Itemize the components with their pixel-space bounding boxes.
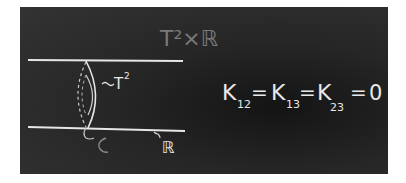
k13-letter: K [271,80,286,105]
torus-front-arc [86,61,96,128]
line-pointer [154,132,160,138]
equals-3: = [350,80,367,104]
circle-c-curve [99,138,108,152]
zero: 0 [369,81,382,105]
cylinder-top-line [28,60,183,61]
chalk-drawing: T²×ℝ T 2 ℝ K 12 = K 13 = K 23 = 0 [0,0,406,183]
k23-subscript: 23 [330,101,344,114]
equation: K 12 = K 13 = K 23 = 0 [222,80,382,114]
k12-letter: K [222,80,237,105]
equals-1: = [251,80,268,104]
torus-inner-arc [86,75,93,115]
torus-pointer [102,83,114,86]
k13-subscript: 13 [286,98,300,111]
cylinder-bottom-line [28,127,185,131]
torus-label-exponent: 2 [124,71,130,81]
equals-2: = [299,80,316,104]
circle-pointer [84,128,94,139]
torus-inner-back-arc [82,75,86,115]
title-label: T²×ℝ [159,26,218,51]
k12-subscript: 12 [237,98,251,111]
torus-label: T [113,75,124,93]
line-label: ℝ [162,138,175,157]
